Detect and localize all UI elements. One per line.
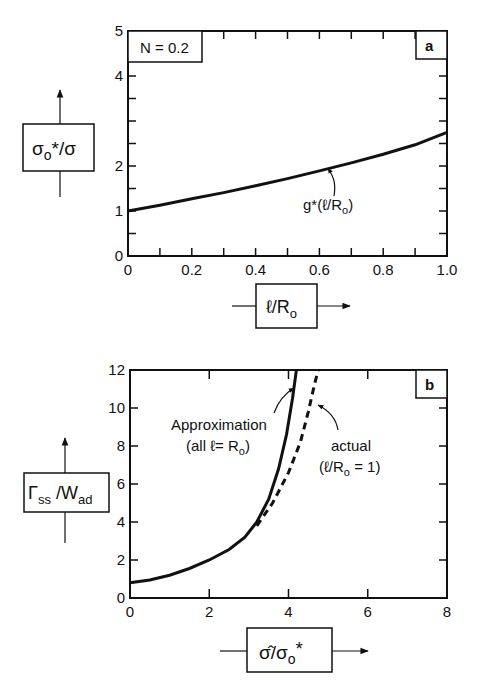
panel-b-ticks [130, 370, 447, 598]
approx-label-line2: (all ℓ= Ro) [186, 437, 250, 457]
approx-label-line1: Approximation [171, 416, 267, 433]
y-tick-label: 1 [115, 202, 123, 219]
x-tick-label: 2 [205, 603, 213, 620]
curve-label-arrow [328, 168, 335, 196]
y-tick-label: 12 [108, 361, 125, 378]
panel-b-label: b [425, 376, 434, 393]
y-tick-label: 6 [117, 475, 125, 492]
y-tick-label: 4 [115, 67, 123, 84]
y-tick-label: 0 [115, 247, 123, 264]
x-tick-label: 0.6 [309, 261, 330, 278]
panel-a-plot-frame [128, 31, 447, 256]
panel-b: 02468024681012 b Approximation (all ℓ= R… [24, 361, 451, 672]
x-tick-label: 0.2 [181, 261, 202, 278]
y-tick-label: 8 [117, 437, 125, 454]
x-tick-label: 0.4 [245, 261, 266, 278]
y-tick-label: 4 [117, 513, 125, 530]
panel-a-curve-g-star [128, 132, 447, 211]
annotation-n-text: N = 0.2 [140, 39, 189, 56]
y-tick-label: 0 [117, 589, 125, 606]
y-tick-label: 5 [115, 22, 123, 39]
x-tick-label: 8 [443, 603, 451, 620]
x-tick-label: 6 [364, 603, 372, 620]
x-tick-label: 1.0 [437, 261, 458, 278]
panel-b-plot-frame [130, 370, 447, 598]
x-tick-label: 4 [284, 603, 292, 620]
panel-b-curve-approximation [130, 370, 296, 583]
panel-a-ticks [128, 31, 447, 256]
curve-label-g-star: g*(ℓ/Ro) [303, 196, 353, 216]
y-tick-label: 2 [117, 551, 125, 568]
y-tick-label: 10 [108, 399, 125, 416]
x-tick-label: 0 [124, 261, 132, 278]
figure: 00.20.40.60.81.001245 N = 0.2 a g*(ℓ/Ro)… [0, 0, 478, 690]
actual-arrow [318, 405, 338, 430]
panel-a: 00.20.40.60.81.001245 N = 0.2 a g*(ℓ/Ro)… [23, 22, 457, 328]
x-tick-label: 0 [126, 603, 134, 620]
panel-a-label: a [425, 37, 434, 54]
x-tick-label: 0.8 [373, 261, 394, 278]
actual-label-line1: actual [331, 437, 371, 454]
y-tick-label: 2 [115, 157, 123, 174]
actual-label-line2: (ℓ/Ro = 1) [319, 458, 380, 478]
